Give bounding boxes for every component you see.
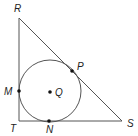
vertex-label-t: T	[10, 123, 17, 134]
point-q-dot	[48, 90, 52, 94]
vertex-label-r: R	[14, 3, 21, 14]
geometry-diagram: RTS MNPQ	[0, 0, 138, 136]
triangle-rts	[19, 18, 122, 121]
point-label-n: N	[46, 124, 54, 135]
point-m-dot	[17, 89, 21, 93]
point-label-q: Q	[55, 87, 63, 98]
point-n-dot	[47, 119, 51, 123]
vertex-label-s: S	[127, 118, 134, 129]
point-label-p: P	[77, 61, 84, 72]
point-label-m: M	[4, 86, 13, 97]
point-p-dot	[70, 69, 74, 73]
